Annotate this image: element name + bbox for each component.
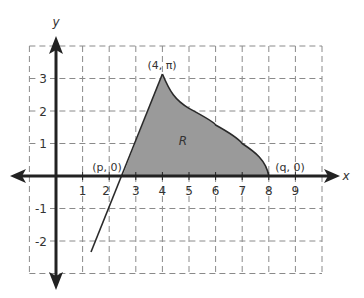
y-tick-neg2: -2 (35, 235, 47, 249)
x-tick-5: 5 (185, 184, 193, 198)
x-tick-9: 9 (292, 184, 300, 198)
x-tick-2: 2 (102, 184, 110, 198)
y-tick-2: 2 (39, 105, 47, 119)
q-point-label: (q, 0) (275, 161, 305, 174)
x-tick-8: 8 (265, 184, 273, 198)
coordinate-plane: 1 2 3 4 5 6 7 8 9 3 2 1 -1 -2 y x (4, π)… (0, 0, 364, 298)
x-tick-3: 3 (132, 184, 140, 198)
y-axis-label: y (51, 15, 60, 29)
x-tick-4: 4 (159, 184, 167, 198)
y-tick-neg1: -1 (35, 202, 47, 216)
x-tick-labels: 1 2 3 4 5 6 7 8 9 (79, 184, 299, 198)
y-tick-labels: 3 2 1 -1 -2 (30, 70, 50, 249)
x-tick-7: 7 (238, 184, 246, 198)
p-point-label: (p, 0) (92, 161, 122, 174)
region-label: R (179, 134, 187, 148)
x-tick-6: 6 (212, 184, 220, 198)
peak-label: (4, π) (147, 59, 176, 72)
y-tick-1: 1 (39, 137, 47, 151)
region-r (123, 74, 269, 176)
x-tick-1: 1 (79, 184, 87, 198)
x-axis-label: x (341, 169, 350, 183)
y-axis (49, 36, 63, 290)
y-tick-3: 3 (39, 72, 47, 86)
